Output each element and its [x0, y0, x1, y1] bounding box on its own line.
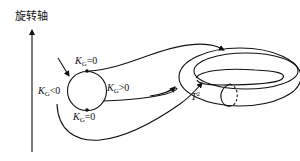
rotation-axis-label: 旋转轴	[15, 7, 48, 23]
kg-symbol: K	[75, 55, 82, 66]
torus-superscript: 2	[197, 90, 201, 98]
kg-relation: >0	[119, 82, 130, 93]
kg-relation: =0	[85, 111, 96, 122]
sweep-curve-top	[89, 44, 224, 71]
cross-section-dashed	[230, 84, 237, 106]
torus-hole	[196, 69, 283, 85]
kg-left-label: KG<0	[38, 85, 60, 98]
torus-label: T2	[191, 90, 200, 102]
kg-symbol: K	[107, 82, 114, 93]
kg-symbol: K	[38, 85, 45, 96]
kg-relation: <0	[50, 85, 61, 96]
kg-relation: =0	[87, 55, 98, 66]
gaussian-curvature-torus-diagram: 旋转轴 KG=0 KG>0 KG<0 KG=0 T2	[0, 0, 300, 161]
kg-bottom-label: KG=0	[73, 111, 95, 124]
generating-circle	[68, 72, 107, 111]
kg-symbol: K	[73, 111, 80, 122]
kg-top-label: KG=0	[75, 55, 97, 68]
top-point	[85, 69, 89, 73]
pointer-arrow	[58, 58, 69, 76]
diagram-canvas	[0, 0, 300, 161]
kg-right-label: KG>0	[107, 82, 129, 95]
